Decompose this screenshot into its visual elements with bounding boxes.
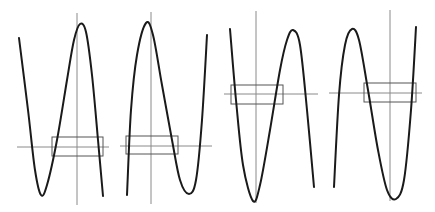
graph-panel-3 bbox=[224, 11, 318, 203]
graph-panel-1 bbox=[17, 13, 109, 205]
cubic-curve bbox=[127, 22, 207, 195]
graph-panel-2 bbox=[120, 12, 212, 204]
cubic-graphs-figure bbox=[0, 0, 435, 212]
cubic-curve bbox=[334, 27, 416, 200]
cubic-curve bbox=[230, 29, 314, 202]
graph-panel-4 bbox=[329, 10, 422, 201]
viewing-window-rect bbox=[126, 136, 178, 154]
cubic-curve bbox=[19, 24, 103, 196]
